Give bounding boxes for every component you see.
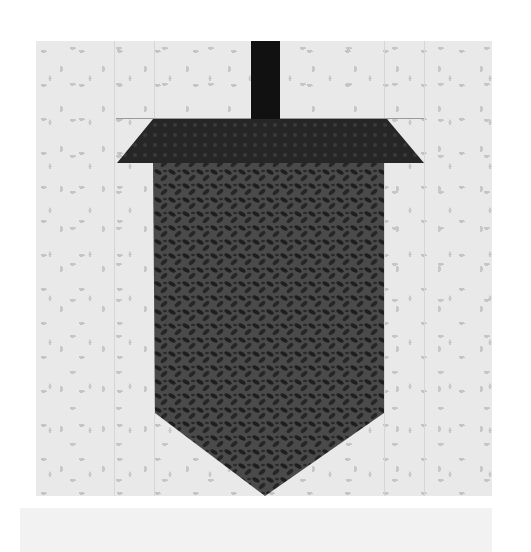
- acorn-stem: [251, 41, 280, 119]
- acorn-body: [153, 163, 384, 496]
- acorn-cap: [117, 119, 424, 163]
- acorn-shape: [0, 0, 531, 552]
- bottom-band: [20, 508, 492, 552]
